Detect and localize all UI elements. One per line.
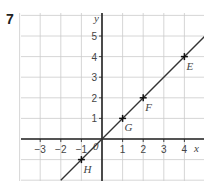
x-tick-label: −1	[76, 144, 88, 155]
grid	[20, 13, 204, 181]
line-y-equals-x	[61, 36, 204, 180]
y-tick-label: 2	[91, 93, 97, 104]
y-tick-label: 5	[91, 31, 97, 42]
point-label: G	[125, 121, 133, 133]
point-F: F	[140, 94, 153, 113]
point-label: E	[185, 60, 193, 72]
point-label: H	[82, 163, 92, 175]
point-E: E	[181, 53, 194, 72]
y-tick-label: 1	[91, 113, 97, 124]
x-tick-label: 2	[140, 144, 146, 155]
x-tick-label: −2	[55, 144, 67, 155]
y-tick-label: 4	[91, 52, 97, 63]
y-axis-label: y	[93, 12, 99, 24]
coordinate-graph: xy0 −3−2−1123412345 EFGH	[0, 0, 204, 188]
tick-labels: −3−2−1123412345	[34, 31, 187, 155]
x-tick-label: −3	[34, 144, 46, 155]
x-tick-label: 3	[161, 144, 167, 155]
point-label: F	[144, 101, 152, 113]
point-H: H	[78, 156, 93, 175]
x-axis-label: x	[193, 142, 199, 154]
origin-label: 0	[93, 140, 99, 152]
y-tick-label: 3	[91, 72, 97, 83]
point-G: G	[119, 115, 133, 133]
x-tick-label: 1	[120, 144, 126, 155]
x-tick-label: 4	[182, 144, 188, 155]
axes: xy0	[21, 12, 204, 181]
